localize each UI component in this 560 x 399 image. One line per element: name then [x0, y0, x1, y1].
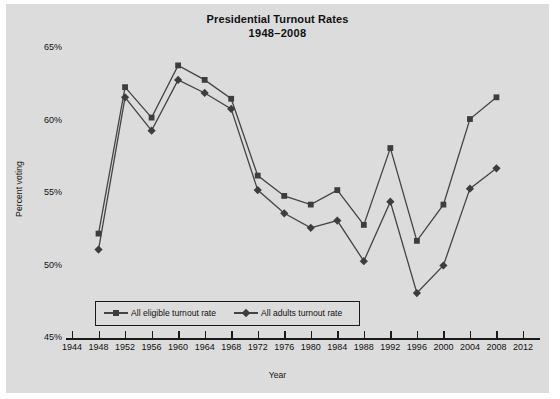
legend-diamond-marker-icon — [234, 307, 258, 319]
chart-legend: All eligible turnout rate All adults tur… — [95, 301, 360, 326]
data-point-square-marker — [308, 202, 314, 208]
chart-plot-area: Presidential Turnout Rates 1948–2008 Per… — [6, 4, 549, 393]
data-point-square-marker — [414, 238, 420, 244]
chart-figure: Presidential Turnout Rates 1948–2008 Per… — [0, 0, 560, 399]
series-line — [99, 65, 497, 240]
data-point-square-marker — [202, 77, 208, 83]
data-point-diamond-marker — [360, 257, 368, 265]
legend-square-marker-icon — [104, 307, 128, 319]
data-point-diamond-marker — [333, 216, 341, 224]
legend-item-all-eligible-turnout-rate[interactable]: All eligible turnout rate — [104, 302, 216, 324]
data-point-square-marker — [175, 63, 181, 69]
legend-label: All eligible turnout rate — [131, 308, 216, 318]
data-point-square-marker — [149, 115, 155, 121]
series-all-eligible-turnout-rate — [96, 63, 500, 244]
data-point-diamond-marker — [174, 76, 182, 84]
data-point-diamond-marker — [201, 89, 209, 97]
data-point-square-marker — [334, 187, 340, 193]
data-point-square-marker — [122, 84, 128, 90]
data-point-square-marker — [361, 222, 367, 228]
series-plot — [6, 4, 549, 393]
data-point-square-marker — [467, 116, 473, 122]
data-point-square-marker — [281, 193, 287, 199]
data-point-square-marker — [441, 202, 447, 208]
legend-item-all-adults-turnout-rate[interactable]: All adults turnout rate — [234, 302, 342, 324]
series-line — [99, 80, 497, 293]
data-point-square-marker — [387, 145, 393, 151]
data-point-diamond-marker — [94, 245, 102, 253]
data-point-square-marker — [255, 173, 261, 179]
data-point-square-marker — [494, 94, 500, 100]
data-point-diamond-marker — [386, 198, 394, 206]
legend-label: All adults turnout rate — [261, 308, 342, 318]
data-point-square-marker — [228, 96, 234, 102]
data-point-diamond-marker — [307, 224, 315, 232]
